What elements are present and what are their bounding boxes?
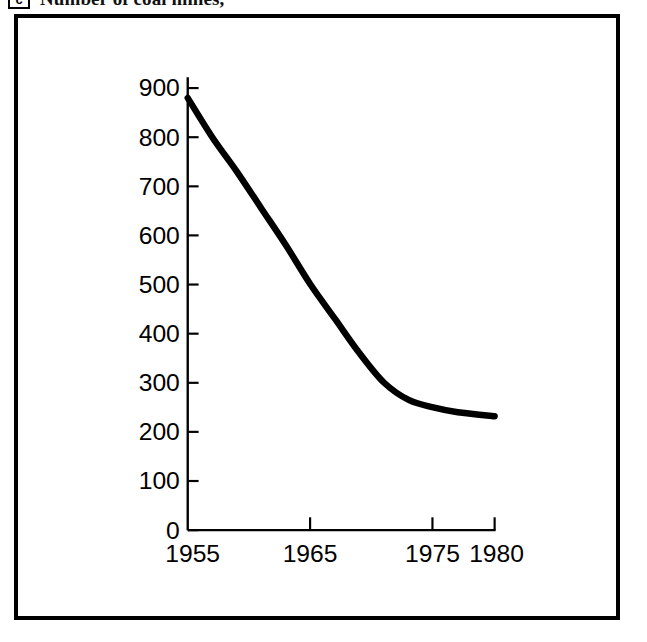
x-tick-label: 1965: [283, 540, 338, 567]
x-tick-label: 1980: [469, 540, 524, 567]
y-tick-marks: [188, 88, 199, 530]
x-tick-label: 1955: [165, 540, 220, 567]
line-chart: 0 100 200 300 400 500 600 700 800 900 19…: [18, 18, 616, 616]
y-tick-label: 900: [139, 74, 180, 101]
y-tick-label: 500: [139, 271, 180, 298]
y-tick-label: 200: [139, 418, 180, 445]
caption-title: Number of coal mines,: [40, 0, 224, 10]
y-tick-labels: 0 100 200 300 400 500 600 700 800 900: [139, 74, 180, 543]
x-tick-labels: 1955 1965 1975 1980: [165, 540, 524, 567]
y-tick-label: 400: [139, 320, 180, 347]
x-tick-marks: [310, 517, 495, 530]
data-series-line: [188, 98, 495, 416]
x-tick-label: 1975: [405, 540, 460, 567]
figure-frame: 0 100 200 300 400 500 600 700 800 900 19…: [14, 14, 620, 620]
y-tick-label: 800: [139, 124, 180, 151]
y-tick-label: 600: [139, 222, 180, 249]
y-tick-label: 300: [139, 369, 180, 396]
y-tick-label: 700: [139, 173, 180, 200]
caption-badge: c: [8, 0, 30, 9]
y-tick-label: 100: [139, 467, 180, 494]
figure-caption: c Number of coal mines,: [0, 0, 647, 14]
